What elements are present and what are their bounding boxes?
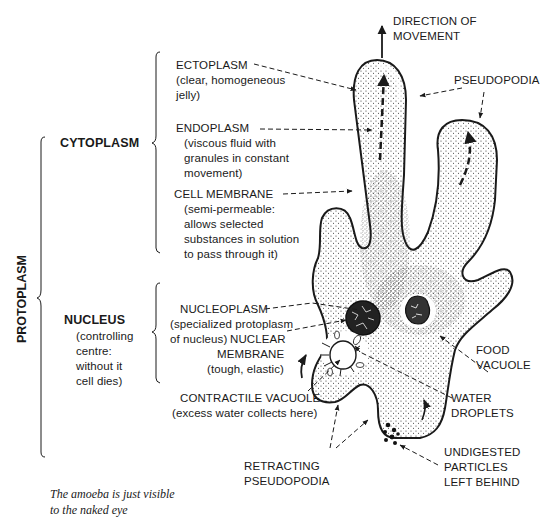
nuclear-membrane-label-2: MEMBRANE — [217, 347, 284, 362]
food-vacuole-label-1: FOOD — [476, 343, 510, 358]
caption-line-1: The amoeba is just visible — [50, 486, 175, 502]
water-droplets-label-2: DROPLETS — [451, 406, 514, 421]
nuclear-membrane-label-1: NUCLEAR — [230, 332, 286, 347]
contractile-vacuole-desc: (excess water collects here) — [172, 406, 317, 421]
nucleus-desc-4: cell dies) — [76, 374, 122, 389]
cell-membrane-desc-1: (semi-permeable: — [184, 202, 275, 217]
ectoplasm-desc-1: (clear, homogeneous — [176, 73, 285, 88]
endoplasm-desc-2: granules in constant — [184, 151, 289, 166]
caption-line-2: to the naked eye — [50, 502, 128, 518]
brace-nucleus — [152, 283, 160, 383]
direction-label-1: DIRECTION OF — [393, 14, 477, 29]
undigested-label-2: PARTICLES — [444, 460, 508, 475]
brace-protoplasm — [37, 137, 45, 457]
endoplasm-label: ENDOPLASM — [176, 121, 249, 136]
nucleus-desc-3: without it — [76, 359, 122, 374]
cell-membrane-desc-2: allows selected — [184, 217, 263, 232]
nucleoplasm-desc-1: (specialized protoplasm — [170, 317, 293, 332]
cytoplasm-label: CYTOPLASM — [60, 136, 139, 151]
nucleoplasm-desc-2: of nucleus) — [170, 332, 227, 347]
food-vacuole-label-2: VACUOLE — [476, 358, 531, 373]
direction-label-2: MOVEMENT — [393, 29, 460, 44]
ectoplasm-label: ECTOPLASM — [176, 58, 248, 73]
endoplasm-desc-3: movement) — [184, 166, 242, 181]
pseudopodia-label: PSEUDOPODIA — [454, 73, 539, 88]
endoplasm-desc-1: (viscous fluid with — [184, 136, 276, 151]
nucleus-desc-2: centre: — [76, 344, 112, 359]
contractile-vacuole-label: CONTRACTILE VACUOLE — [180, 391, 320, 406]
nuclear-membrane-desc: (tough, elastic) — [207, 362, 284, 377]
undigested-label-1: UNDIGESTED — [444, 445, 520, 460]
cell-membrane-desc-4: to pass through it) — [184, 247, 278, 262]
retracting-pseudopodia-label-1: RETRACTING — [244, 459, 320, 474]
cell-membrane-desc-3: substances in solution — [184, 232, 299, 247]
water-droplets-label-1: WATER — [451, 391, 492, 406]
protoplasm-label: PROTOPLASM — [15, 255, 29, 343]
brace-cytoplasm — [152, 52, 160, 253]
nucleus-desc-1: (controlling — [76, 329, 133, 344]
nucleus-label: NUCLEUS — [64, 313, 125, 328]
ectoplasm-desc-2: jelly) — [176, 88, 200, 103]
nucleus-shape — [346, 301, 380, 335]
amoeba-outline — [312, 60, 512, 438]
nucleoplasm-label: NUCLEOPLASM — [180, 302, 268, 317]
retracting-pseudopodia-label-2: PSEUDOPODIA — [244, 474, 329, 489]
undigested-label-3: LEFT BEHIND — [444, 475, 520, 490]
food-vacuole-shape — [400, 294, 436, 328]
cell-membrane-label: CELL MEMBRANE — [174, 187, 273, 202]
